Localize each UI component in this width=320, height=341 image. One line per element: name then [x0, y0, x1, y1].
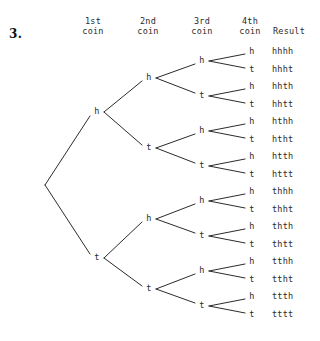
result-thtt: thtt [272, 240, 293, 249]
node-coin4-t-13: t [246, 275, 258, 284]
branch-l3-l4-5 [209, 131, 245, 138]
branch-l3-l4-2 [209, 89, 245, 96]
branch-l3-l4-13 [209, 271, 245, 278]
result-thht: thht [272, 205, 293, 214]
result-hhht: hhht [272, 65, 293, 74]
branch-l2-l3-1 [156, 78, 195, 93]
branch-l3-l4-3 [209, 96, 245, 103]
node-coin4-t-3: t [246, 100, 258, 109]
node-coin4-h-2: h [246, 82, 258, 91]
branch-l3-l4-11 [209, 236, 245, 243]
node-coin4-t-9: t [246, 205, 258, 214]
node-coin4-t-7: t [246, 170, 258, 179]
node-coin4-t-15: t [246, 310, 258, 319]
node-coin3-t-5: t [196, 231, 208, 240]
branch-l1-l2-1 [104, 112, 142, 145]
node-coin3-t-7: t [196, 301, 208, 310]
node-coin1-h-0: h [91, 107, 103, 116]
branch-l3-l4-9 [209, 201, 245, 208]
node-coin4-h-8: h [246, 187, 258, 196]
branch-l3-l4-14 [209, 299, 245, 306]
result-hthh: hthh [272, 117, 293, 126]
node-coin3-h-4: h [196, 196, 208, 205]
node-coin4-h-4: h [246, 117, 258, 126]
col-2nd-coin: 2nd coin [126, 16, 170, 36]
node-coin4-t-5: t [246, 135, 258, 144]
result-hhtt: hhtt [272, 100, 293, 109]
branch-l3-l4-4 [209, 124, 245, 131]
branch-l2-l3-3 [156, 148, 195, 163]
branch-l2-l3-6 [156, 274, 195, 289]
node-coin4-h-6: h [246, 152, 258, 161]
result-htth: htth [272, 152, 293, 161]
branch-l3-l4-0 [209, 54, 245, 61]
node-coin3-t-1: t [196, 91, 208, 100]
col-result: Result [267, 16, 311, 36]
col-3rd-coin: 3rd coin [180, 16, 224, 36]
result-thhh: thhh [272, 187, 293, 196]
branch-l1-l2-0 [104, 81, 142, 112]
branch-l3-l4-6 [209, 159, 245, 166]
branch-l3-l4-7 [209, 166, 245, 173]
branch-l3-l4-1 [209, 61, 245, 68]
result-hhth: hhth [272, 82, 293, 91]
branch-l2-l3-5 [156, 219, 195, 233]
branch-l2-l3-4 [156, 204, 195, 219]
result-thth: thth [272, 222, 293, 231]
branch-l2-l3-7 [156, 289, 195, 303]
branch-l1-l2-2 [104, 222, 142, 258]
node-coin4-h-10: h [246, 222, 258, 231]
branch-l2-l3-0 [156, 64, 195, 78]
node-coin4-t-1: t [246, 65, 258, 74]
node-coin3-h-0: h [196, 56, 208, 65]
node-coin3-t-3: t [196, 161, 208, 170]
result-httt: httt [272, 170, 293, 179]
col-4th-coin: 4th coin [228, 16, 272, 36]
probability-tree-diagram: 3. 1st coin2nd coin3rd coin4th coin Resu… [0, 0, 320, 341]
result-ttht: ttht [272, 275, 293, 284]
branch-l3-l4-10 [209, 229, 245, 236]
node-coin4-h-12: h [246, 257, 258, 266]
node-coin4-h-0: h [246, 47, 258, 56]
branch-l3-l4-8 [209, 194, 245, 201]
node-coin4-t-11: t [246, 240, 258, 249]
result-hhhh: hhhh [272, 47, 293, 56]
problem-number: 3. [9, 27, 23, 41]
node-coin2-t-3: t [143, 284, 155, 293]
branch-l1-l2-3 [104, 258, 142, 286]
node-coin1-t-1: t [91, 253, 103, 262]
branch-l2-l3-2 [156, 134, 195, 148]
result-ttth: ttth [272, 292, 293, 301]
node-coin4-h-14: h [246, 292, 258, 301]
result-tttt: tttt [272, 310, 293, 319]
result-tthh: tthh [272, 257, 293, 266]
result-htht: htht [272, 135, 293, 144]
node-coin2-h-0: h [143, 73, 155, 82]
node-coin3-h-2: h [196, 126, 208, 135]
branch-l3-l4-12 [209, 264, 245, 271]
node-coin2-t-1: t [143, 143, 155, 152]
node-coin3-h-6: h [196, 266, 208, 275]
branch-root-0 [45, 116, 90, 185]
branch-root-1 [45, 185, 90, 254]
col-1st-coin: 1st coin [71, 16, 115, 36]
branch-l3-l4-15 [209, 306, 245, 313]
node-coin2-h-2: h [143, 214, 155, 223]
